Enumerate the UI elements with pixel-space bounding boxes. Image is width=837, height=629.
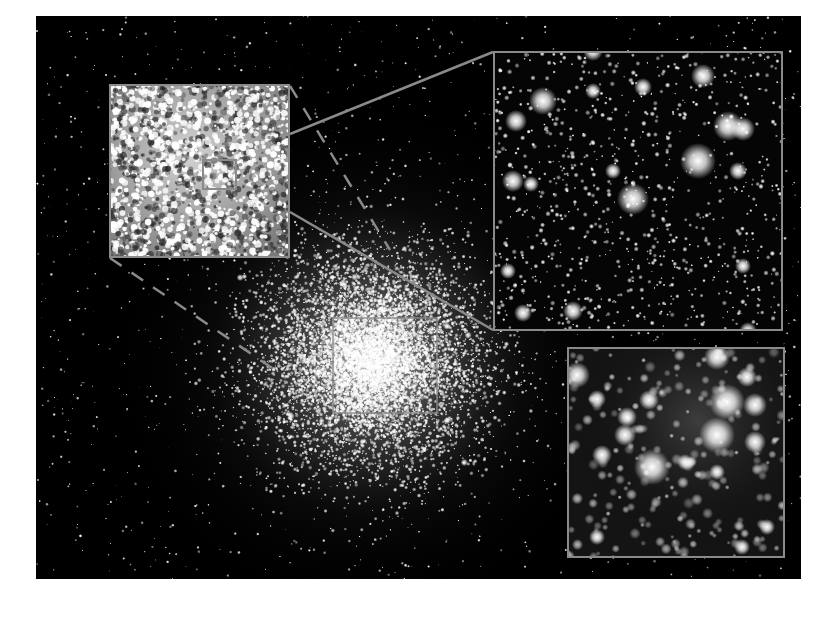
left-zoom-inset: [109, 84, 290, 258]
bottom-right-inset-image: [567, 347, 785, 558]
bottom-right-zoom-inset: [567, 347, 785, 558]
left-inset-image: [109, 84, 290, 258]
top-right-zoom-inset: [493, 51, 783, 331]
top-right-inset-image: [493, 51, 783, 331]
